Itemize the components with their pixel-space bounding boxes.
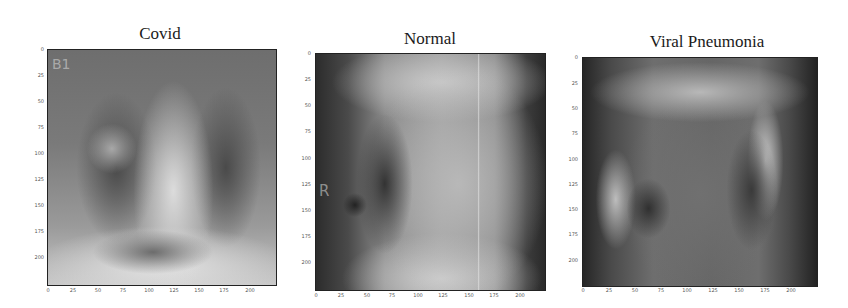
x-tick-label: 175	[755, 287, 775, 293]
x-tick-label: 125	[164, 287, 184, 293]
x-tick-label: 25	[63, 287, 83, 293]
y-tick-label: 200	[291, 259, 311, 265]
x-tick-label: 100	[139, 287, 159, 293]
y-tick-label: 75	[558, 130, 578, 136]
x-tick-label: 50	[88, 287, 108, 293]
y-tick-label: 200	[558, 257, 578, 263]
y-tick-label: 175	[291, 233, 311, 239]
panel-title: Covid	[139, 24, 181, 44]
xray-image-viral-pneumonia	[582, 57, 818, 287]
panel-title: Normal	[404, 29, 456, 49]
x-tick-label: 75	[651, 287, 671, 293]
y-tick-label: 100	[558, 156, 578, 162]
y-tick-label: 0	[291, 50, 311, 56]
y-tick-label: 0	[24, 46, 44, 52]
y-tick-label: 25	[291, 76, 311, 82]
x-tick-label: 125	[703, 287, 723, 293]
y-tick-label: 25	[558, 80, 578, 86]
x-tick-label: 150	[189, 287, 209, 293]
y-tick-label: 75	[291, 128, 311, 134]
x-tick-label: 100	[677, 287, 697, 293]
x-tick-label: 25	[331, 292, 351, 298]
x-tick-label: 0	[38, 287, 58, 293]
y-tick-label: 150	[558, 206, 578, 212]
x-tick-label: 175	[484, 292, 504, 298]
y-tick-label: 175	[558, 231, 578, 237]
x-tick-label: 0	[573, 287, 593, 293]
y-tick-label: 100	[291, 155, 311, 161]
y-tick-label: 50	[558, 105, 578, 111]
y-tick-label: 50	[24, 98, 44, 104]
x-tick-label: 50	[625, 287, 645, 293]
x-tick-label: 150	[729, 287, 749, 293]
x-tick-label: 100	[408, 292, 428, 298]
x-tick-label: 200	[510, 292, 530, 298]
y-tick-label: 150	[291, 207, 311, 213]
y-tick-label: 125	[558, 181, 578, 187]
image-marker-label: R	[319, 182, 329, 200]
panel-title: Viral Pneumonia	[650, 32, 765, 52]
xray-image-covid: B1	[47, 49, 277, 286]
x-tick-label: 175	[214, 287, 234, 293]
y-tick-label: 200	[24, 254, 44, 260]
y-tick-label: 0	[558, 54, 578, 60]
y-tick-label: 25	[24, 72, 44, 78]
x-tick-label: 200	[240, 287, 260, 293]
y-tick-label: 175	[24, 228, 44, 234]
x-tick-label: 0	[306, 292, 326, 298]
x-tick-label: 50	[357, 292, 377, 298]
x-tick-label: 200	[781, 287, 801, 293]
y-tick-label: 125	[24, 176, 44, 182]
x-tick-label: 75	[113, 287, 133, 293]
y-tick-label: 100	[24, 150, 44, 156]
image-marker-label: B1	[52, 56, 71, 72]
x-tick-label: 25	[599, 287, 619, 293]
y-tick-label: 50	[291, 102, 311, 108]
x-tick-label: 125	[433, 292, 453, 298]
xray-image-normal: R	[315, 53, 546, 291]
y-tick-label: 125	[291, 181, 311, 187]
y-tick-label: 75	[24, 124, 44, 130]
x-tick-label: 150	[459, 292, 479, 298]
y-tick-label: 150	[24, 202, 44, 208]
x-tick-label: 75	[382, 292, 402, 298]
